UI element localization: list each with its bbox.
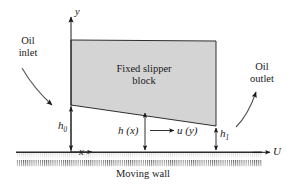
block-label-line1: Fixed slipper bbox=[104, 63, 184, 75]
oil-inlet-arrow bbox=[22, 68, 52, 105]
wall-velocity-label: U bbox=[273, 145, 281, 157]
h0-label: h0 bbox=[58, 119, 67, 134]
h0-subscript: 0 bbox=[64, 126, 68, 134]
slipper-bearing-diagram: y x Fixed slipper block Oil inlet Oil ou… bbox=[0, 0, 287, 188]
h1-subscript: 1 bbox=[226, 134, 230, 142]
wall-hatching bbox=[16, 153, 262, 166]
hx-label: h (x) bbox=[118, 124, 138, 136]
oil-outlet-arrow bbox=[236, 92, 256, 127]
y-axis-label: y bbox=[75, 6, 80, 18]
oil-inlet-label-line2: inlet bbox=[8, 47, 48, 59]
oil-outlet-label-line2: outlet bbox=[240, 73, 284, 85]
diagram-canvas bbox=[0, 0, 287, 188]
oil-inlet-label-line1: Oil bbox=[8, 35, 48, 47]
oil-outlet-label-line1: Oil bbox=[240, 61, 284, 73]
moving-wall-label: Moving wall bbox=[93, 168, 193, 180]
fluid-velocity-label: u (y) bbox=[177, 124, 197, 136]
x-axis-label: x bbox=[79, 146, 84, 158]
h1-label: h1 bbox=[220, 127, 229, 142]
block-label-line2: block bbox=[104, 75, 184, 87]
